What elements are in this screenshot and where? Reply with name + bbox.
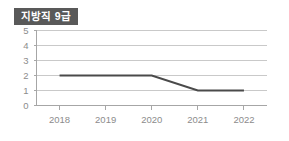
line-chart: 012345 20182019202020212022	[0, 26, 289, 141]
x-tick-label: 2022	[233, 114, 254, 125]
x-tick-label: 2021	[187, 114, 208, 125]
y-tick-label: 4	[23, 40, 28, 51]
y-tick-label: 5	[23, 26, 28, 36]
x-tick-label: 2019	[95, 114, 116, 125]
y-axis-labels: 012345	[23, 26, 28, 111]
series-line	[60, 76, 244, 91]
x-tick-label: 2020	[141, 114, 162, 125]
x-axis-labels: 20182019202020212022	[49, 114, 255, 125]
chart-title-badge: 지방직 9급	[14, 8, 78, 25]
data-series	[60, 76, 244, 91]
x-tick-label: 2018	[49, 114, 70, 125]
y-tick-label: 3	[23, 55, 28, 66]
y-tick-label: 0	[23, 100, 28, 111]
y-tick-label: 1	[23, 85, 28, 96]
chart-figure: 지방직 9급 012345 20182019202020212022	[0, 0, 289, 141]
y-tick-label: 2	[23, 70, 28, 81]
chart-svg: 012345 20182019202020212022	[0, 26, 289, 141]
gridlines	[37, 31, 268, 106]
